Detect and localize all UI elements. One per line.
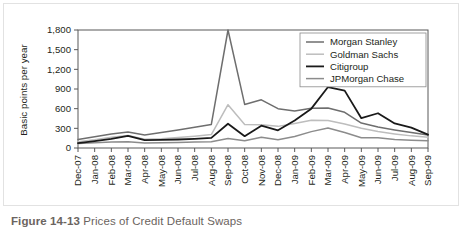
x-tick-label: Jul-08 <box>189 155 200 181</box>
x-tick-label: May-09 <box>356 155 367 187</box>
y-tick-label: 900 <box>55 83 71 94</box>
x-tick-label: Sep-08 <box>222 155 233 186</box>
x-tick-label: Apr-09 <box>339 155 350 184</box>
credit-default-swap-line-chart: Basic points per year 03006009001,2001,5… <box>0 0 470 210</box>
y-axis-ticks: 03006009001,2001,5001,800 <box>47 24 78 153</box>
y-tick-label: 1,800 <box>47 24 71 35</box>
y-tick-label: 1,500 <box>47 44 71 55</box>
series-line-citigroup <box>78 87 428 143</box>
x-tick-label: Jun-08 <box>172 155 183 184</box>
x-tick-label: Aug-09 <box>406 155 417 186</box>
x-tick-label: Jan-08 <box>89 155 100 184</box>
y-tick-label: 0 <box>66 142 71 153</box>
caption-clip-fade <box>0 226 470 234</box>
figure-container: Basic points per year 03006009001,2001,5… <box>0 0 470 234</box>
legend-label-goldman-sachs: Goldman Sachs <box>330 49 398 60</box>
y-tick-label: 600 <box>55 103 71 114</box>
x-tick-label: Dec-07 <box>72 155 83 186</box>
x-tick-label: Apr-08 <box>139 155 150 184</box>
y-tick-label: 300 <box>55 123 71 134</box>
x-tick-label: Jul-09 <box>389 155 400 181</box>
x-tick-label: Jun-09 <box>372 155 383 184</box>
x-tick-label: Mar-08 <box>122 155 133 185</box>
x-tick-label: Dec-08 <box>272 155 283 186</box>
x-tick-label: Aug-08 <box>206 155 217 186</box>
x-axis-ticks: Dec-07Jan-08Feb-08Mar-08Apr-08May-08Jun-… <box>72 148 433 187</box>
legend-label-morgan-stanley: Morgan Stanley <box>330 36 397 47</box>
x-tick-label: Sep-09 <box>422 155 433 186</box>
x-tick-label: Mar-09 <box>322 155 333 185</box>
y-axis-title: Basic points per year <box>18 44 29 136</box>
x-tick-label: May-08 <box>156 155 167 187</box>
legend-label-jpmorgan-chase: JPMorgan Chase <box>330 73 404 84</box>
x-tick-label: Jan-09 <box>289 155 300 184</box>
x-tick-label: Feb-08 <box>106 155 117 185</box>
chart-legend: Morgan StanleyGoldman SachsCitigroupJPMo… <box>300 33 426 87</box>
y-tick-label: 1,200 <box>47 64 71 75</box>
x-tick-label: Nov-08 <box>256 155 267 186</box>
x-tick-label: Oct-08 <box>239 155 250 184</box>
legend-label-citigroup: Citigroup <box>330 61 368 72</box>
x-tick-label: Feb-09 <box>306 155 317 185</box>
